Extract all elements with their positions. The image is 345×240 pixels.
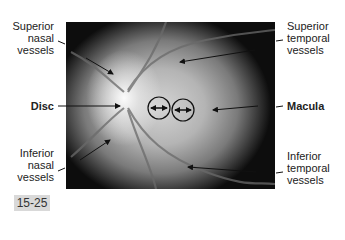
label-superior-temporal-vessels: Superior temporal vessels [287,20,345,56]
label-line: Superior [287,20,345,32]
label-line: vessels [4,171,54,183]
label-line: vessels [287,44,345,56]
label-line: nasal [4,159,54,171]
label-line: Inferior [4,147,54,159]
label-macula: Macula [287,100,345,112]
label-line: vessels [287,174,345,186]
label-disc: Disc [4,100,54,112]
label-line: nasal [4,32,54,44]
label-line: temporal [287,32,345,44]
label-line: Superior [4,20,54,32]
label-inferior-temporal-vessels: Inferior temporal vessels [287,150,345,186]
label-line: temporal [287,162,345,174]
figure-number-badge: 15-25 [14,195,50,211]
macula-circles [148,97,194,121]
label-inferior-nasal-vessels: Inferior nasal vessels [4,147,54,183]
label-line: vessels [4,44,54,56]
label-superior-nasal-vessels: Superior nasal vessels [4,20,54,56]
label-line: Inferior [287,150,345,162]
